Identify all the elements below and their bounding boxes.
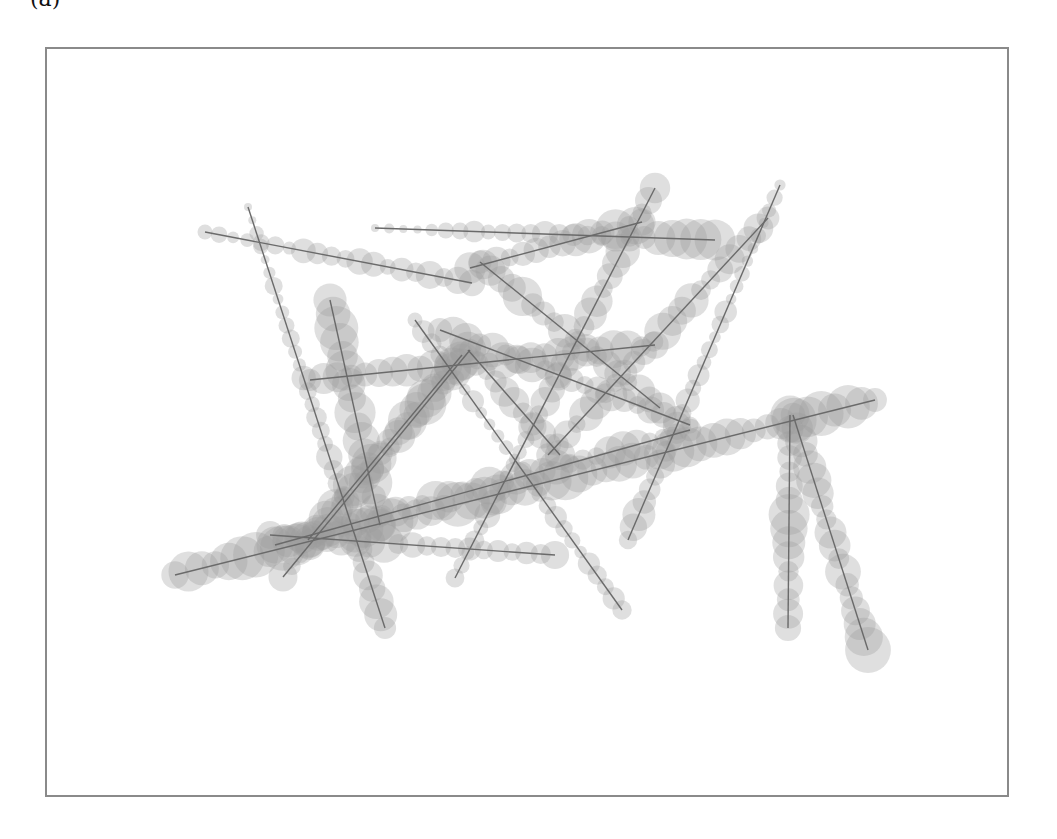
strand-line-0	[205, 232, 472, 283]
strand-canvas	[0, 0, 1057, 839]
